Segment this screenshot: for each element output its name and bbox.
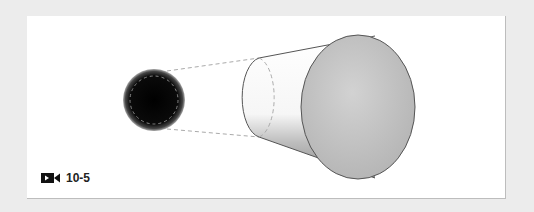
figure-number: 10-5 <box>66 171 90 185</box>
cylinder-projection-diagram <box>27 16 505 198</box>
video-camera-icon <box>41 172 61 184</box>
figure-caption: 10-5 <box>41 171 90 185</box>
figure-panel: 10-5 <box>27 16 506 199</box>
cylinder <box>242 35 415 179</box>
lens-circle <box>123 69 185 131</box>
